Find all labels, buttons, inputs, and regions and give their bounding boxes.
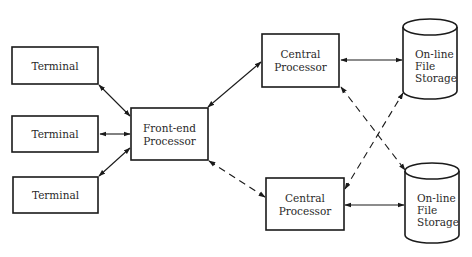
file-storage-1-label-line: Storage — [415, 72, 457, 84]
terminal-2-label-line: Terminal — [31, 128, 79, 140]
file-storage-2: On-lineFileStorage — [405, 163, 459, 243]
edge-front-end-processor-to-central-processor-2 — [209, 161, 265, 197]
central-processor-2: CentralProcessor — [266, 178, 344, 230]
terminal-1: Terminal — [12, 47, 98, 84]
edge-central-processor-2-to-file-storage-1 — [345, 93, 403, 189]
central-processor-1-label-line: Processor — [274, 61, 328, 73]
terminal-3: Terminal — [13, 177, 98, 213]
edge-central-processor-1-to-file-storage-2 — [341, 87, 405, 170]
central-processor-2-label-line: Processor — [279, 205, 333, 217]
file-storage-1-label-line: On-line — [415, 48, 454, 60]
system-architecture-diagram: TerminalTerminalTerminalFront-endProcess… — [0, 0, 472, 257]
central-processor-2-label-line: Central — [285, 192, 326, 204]
file-storage-1-top — [403, 19, 457, 35]
front-end-processor-label-line: Front-end — [143, 122, 196, 134]
central-processor-1: CentralProcessor — [262, 34, 339, 87]
central-processor-1-label-line: Central — [281, 48, 322, 60]
front-end-processor: Front-endProcessor — [131, 108, 208, 160]
front-end-processor-label-line: Processor — [143, 135, 197, 147]
edge-front-end-processor-to-central-processor-1 — [208, 62, 261, 107]
edge-terminal-3-to-front-end-processor — [99, 148, 130, 176]
file-storage-2-top — [405, 163, 459, 179]
file-storage-1-label-line: File — [415, 60, 435, 72]
terminal-3-label-line: Terminal — [32, 189, 80, 201]
file-storage-2-label-line: File — [417, 204, 437, 216]
file-storage-2-label-line: Storage — [417, 216, 459, 228]
file-storage-1: On-lineFileStorage — [403, 19, 457, 99]
edge-terminal-1-to-front-end-processor — [99, 85, 130, 116]
file-storage-2-label-line: On-line — [417, 192, 456, 204]
terminal-2: Terminal — [12, 116, 98, 152]
nodes: TerminalTerminalTerminalFront-endProcess… — [12, 19, 459, 243]
terminal-1-label-line: Terminal — [31, 60, 79, 72]
